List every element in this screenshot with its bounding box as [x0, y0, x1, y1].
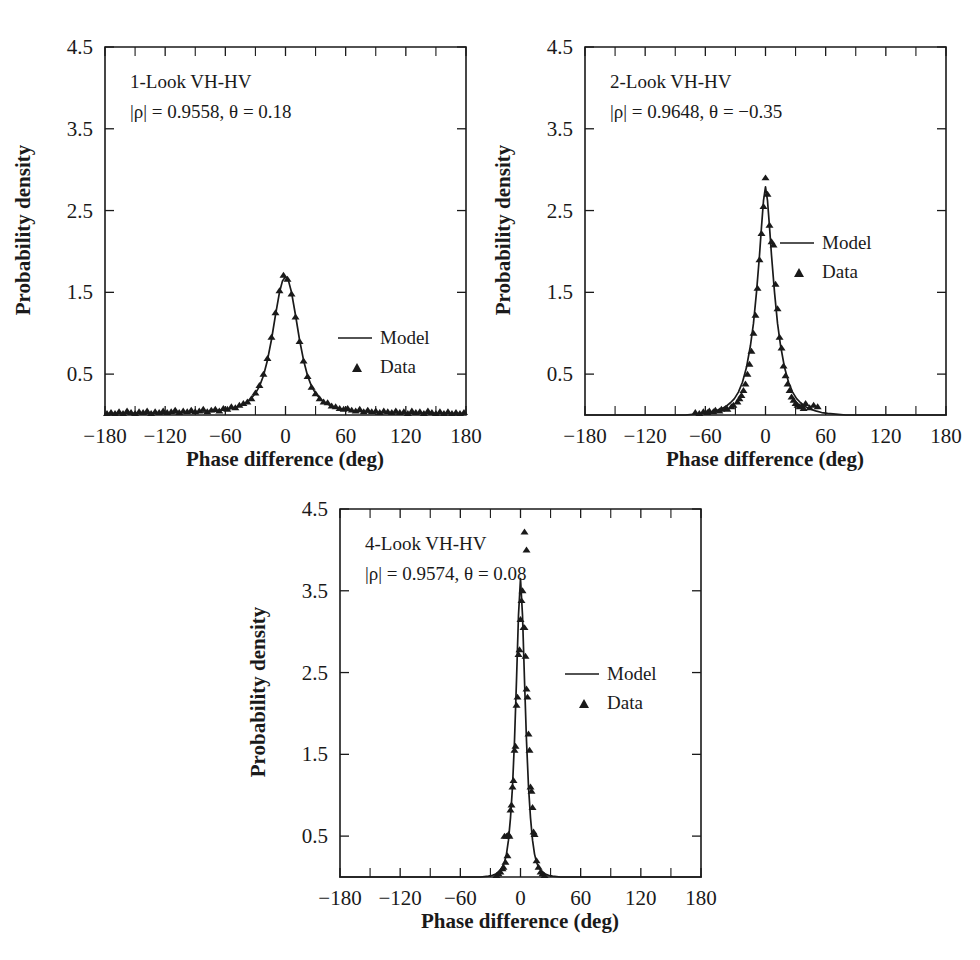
data-point-marker — [512, 702, 520, 708]
data-point-marker — [521, 528, 529, 534]
panel-3-ylabel: Probability density — [246, 606, 270, 777]
x-tick-label: −180 — [318, 886, 361, 910]
data-point-marker — [288, 291, 296, 297]
data-point-marker — [263, 355, 271, 361]
data-point-marker — [511, 743, 519, 749]
panel-1-look: −180−120−600601201800.51.52.53.54.5 1-Lo… — [0, 0, 500, 480]
y-tick-label: 0.5 — [547, 362, 573, 386]
data-point-marker — [300, 358, 308, 364]
y-tick-label: 2.5 — [302, 661, 328, 685]
panel-2-params: |ρ| = 0.9648, θ = −0.35 — [610, 101, 782, 122]
panel-1-plot-frame: −180−120−600601201800.51.52.53.54.5 — [67, 35, 482, 448]
data-point-marker — [267, 334, 275, 340]
x-tick-label: −120 — [623, 424, 666, 448]
data-point-marker — [501, 859, 509, 865]
x-tick-label: −60 — [209, 424, 242, 448]
y-tick-label: 1.5 — [547, 280, 573, 304]
panel-1-params: |ρ| = 0.9558, θ = 0.18 — [130, 101, 292, 122]
panel-2-legend: Model Data — [780, 232, 872, 282]
data-point-marker — [308, 384, 316, 390]
data-point-marker — [759, 203, 767, 209]
data-point-marker — [251, 389, 259, 395]
data-point-marker — [784, 380, 792, 386]
y-tick-label: 4.5 — [547, 35, 573, 59]
data-point-marker — [275, 287, 283, 293]
legend-data-marker — [579, 699, 589, 708]
panel-1-legend: Model Data — [338, 327, 430, 377]
x-tick-label: −120 — [143, 424, 186, 448]
data-point-marker — [776, 334, 784, 340]
panel-3-params: |ρ| = 0.9574, θ = 0.08 — [365, 563, 527, 584]
y-tick-label: 0.5 — [302, 824, 328, 848]
x-tick-label: −60 — [444, 886, 477, 910]
x-tick-label: 0 — [515, 886, 526, 910]
model-curve — [340, 579, 701, 877]
data-point-marker — [749, 330, 757, 336]
x-tick-label: 120 — [625, 886, 657, 910]
data-point-marker — [780, 362, 788, 368]
data-point-marker — [271, 309, 279, 315]
panel-3-legend: Model Data — [565, 663, 657, 713]
panel-2-title: 2-Look VH-HV — [610, 71, 732, 92]
data-point-marker — [766, 222, 774, 228]
panel-3-title: 4-Look VH-HV — [365, 533, 487, 554]
panel-3-plot-frame: −180−120−600601201800.51.52.53.54.5 — [302, 497, 717, 910]
data-point-marker — [774, 305, 782, 311]
data-point-marker — [296, 338, 304, 344]
data-point-marker — [772, 281, 780, 287]
data-point-marker — [509, 777, 517, 783]
y-tick-label: 1.5 — [302, 742, 328, 766]
x-tick-label: 60 — [570, 886, 591, 910]
data-point-marker — [753, 285, 761, 291]
panel-2-look: −180−120−600601201800.51.52.53.54.5 2-Lo… — [480, 0, 980, 480]
model-curve — [585, 187, 946, 415]
y-tick-label: 4.5 — [302, 497, 328, 521]
data-point-marker — [757, 230, 765, 236]
x-tick-label: 0 — [760, 424, 771, 448]
data-point-marker — [802, 400, 810, 406]
legend-data-label: Data — [822, 261, 858, 282]
x-tick-label: 180 — [685, 886, 717, 910]
y-tick-label: 0.5 — [67, 362, 93, 386]
legend-model-label: Model — [822, 232, 872, 253]
data-point-marker — [523, 546, 531, 552]
x-tick-label: −180 — [563, 424, 606, 448]
y-tick-label: 4.5 — [67, 35, 93, 59]
x-tick-label: 180 — [930, 424, 962, 448]
legend-data-marker — [352, 363, 362, 372]
data-point-marker — [522, 653, 530, 659]
data-point-marker — [279, 272, 287, 278]
data-point-marker — [782, 372, 790, 378]
y-tick-label: 1.5 — [67, 280, 93, 304]
y-tick-label: 2.5 — [67, 199, 93, 223]
legend-data-label: Data — [380, 356, 416, 377]
x-tick-label: 60 — [335, 424, 356, 448]
panel-1-title: 1-Look VH-HV — [130, 71, 252, 92]
data-point-marker — [751, 312, 759, 318]
figure-container: −180−120−600601201800.51.52.53.54.5 1-Lo… — [0, 0, 980, 960]
panel-3-xlabel: Phase difference (deg) — [421, 909, 619, 933]
data-point-marker — [535, 864, 543, 870]
x-tick-label: 180 — [450, 424, 482, 448]
x-tick-label: 0 — [280, 424, 291, 448]
legend-model-label: Model — [607, 663, 657, 684]
data-point-marker — [762, 174, 770, 180]
legend-model-label: Model — [380, 327, 430, 348]
data-point-marker — [292, 313, 300, 319]
x-tick-label: 120 — [390, 424, 422, 448]
y-tick-label: 3.5 — [67, 117, 93, 141]
data-point-marker — [255, 382, 263, 388]
y-tick-label: 2.5 — [547, 199, 573, 223]
data-point-marker — [508, 784, 516, 790]
data-point-marker — [778, 344, 786, 350]
x-tick-label: −120 — [378, 886, 421, 910]
data-point-marker — [755, 256, 763, 262]
legend-data-label: Data — [607, 692, 643, 713]
panel-1-ylabel: Probability density — [11, 144, 35, 315]
data-point-marker — [304, 373, 312, 379]
legend-data-marker — [794, 268, 804, 277]
data-point-marker — [513, 694, 521, 700]
panel-1-look-svg: −180−120−600601201800.51.52.53.54.5 1-Lo… — [0, 0, 500, 480]
y-tick-label: 3.5 — [547, 117, 573, 141]
panel-2-ylabel: Probability density — [491, 144, 515, 315]
